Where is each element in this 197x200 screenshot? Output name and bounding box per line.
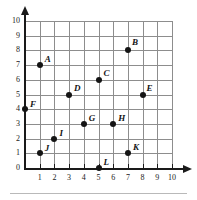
y-axis-tick-label: 0 xyxy=(6,164,20,172)
point-label-f: F xyxy=(30,100,36,109)
y-axis-tick-label: 5 xyxy=(6,91,20,99)
gridline-horizontal xyxy=(25,65,172,66)
point-label-h: H xyxy=(118,114,125,123)
point-label-l: L xyxy=(104,158,110,167)
x-axis-tick-label: 3 xyxy=(62,174,76,182)
y-axis-tick-label: 6 xyxy=(6,76,20,84)
x-axis-tick-label: 10 xyxy=(165,174,179,182)
x-axis-tick-label: 1 xyxy=(33,174,47,182)
plotted-point-d xyxy=(66,92,72,98)
gridline-horizontal xyxy=(25,153,172,154)
y-axis-tick-label: 2 xyxy=(6,135,20,143)
x-axis-tick xyxy=(40,164,41,168)
point-label-e: E xyxy=(147,84,153,93)
x-axis-tick xyxy=(128,164,129,168)
coordinate-plane-figure: 01234567891012345678910 ABCDEFGHIJKL xyxy=(0,0,197,200)
x-axis-tick-label: 4 xyxy=(77,174,91,182)
gridline-horizontal xyxy=(25,50,172,51)
x-axis-tick xyxy=(172,164,173,168)
y-axis-tick-label: 8 xyxy=(6,46,20,54)
plotted-point-a xyxy=(37,62,43,68)
y-axis-tick-label: 9 xyxy=(6,32,20,40)
x-axis-tick-label: 8 xyxy=(136,174,150,182)
x-axis-tick xyxy=(143,164,144,168)
plotted-point-j xyxy=(37,150,43,156)
y-axis-tick-label: 7 xyxy=(6,61,20,69)
gridline-horizontal xyxy=(25,36,172,37)
x-axis-tick xyxy=(157,164,158,168)
point-label-b: B xyxy=(132,38,138,47)
gridline-horizontal xyxy=(25,21,172,22)
y-axis-tick-label: 4 xyxy=(6,105,20,113)
x-axis-tick-label: 9 xyxy=(150,174,164,182)
point-label-d: D xyxy=(74,84,81,93)
x-axis-tick xyxy=(54,164,55,168)
gridline-horizontal xyxy=(25,109,172,110)
gridline-horizontal xyxy=(25,124,172,125)
gridline-horizontal xyxy=(25,95,172,96)
x-axis xyxy=(24,168,183,170)
x-axis-tick xyxy=(113,164,114,168)
point-label-j: J xyxy=(45,144,50,153)
x-axis-tick-label: 5 xyxy=(92,174,106,182)
gridline-horizontal xyxy=(25,139,172,140)
y-axis-tick-label: 10 xyxy=(6,17,20,25)
y-axis-tick-label: 1 xyxy=(6,149,20,157)
plotted-point-e xyxy=(140,92,146,98)
x-axis-arrow-icon xyxy=(183,165,192,173)
y-axis-arrow-icon xyxy=(21,6,29,15)
point-label-i: I xyxy=(59,129,63,138)
point-label-c: C xyxy=(104,69,110,78)
plotted-point-l xyxy=(96,165,102,171)
plotted-point-c xyxy=(96,77,102,83)
point-label-a: A xyxy=(45,55,51,64)
gridline-vertical xyxy=(172,21,173,168)
point-label-k: K xyxy=(133,143,139,152)
footer-divider xyxy=(10,193,187,194)
plotted-point-g xyxy=(81,121,87,127)
x-axis-tick-label: 6 xyxy=(106,174,120,182)
x-axis-tick-label: 2 xyxy=(47,174,61,182)
x-axis-tick-label: 7 xyxy=(121,174,135,182)
x-axis-tick xyxy=(69,164,70,168)
point-label-g: G xyxy=(89,114,96,123)
y-axis-tick-label: 3 xyxy=(6,120,20,128)
x-axis-tick xyxy=(84,164,85,168)
y-axis xyxy=(24,14,26,170)
